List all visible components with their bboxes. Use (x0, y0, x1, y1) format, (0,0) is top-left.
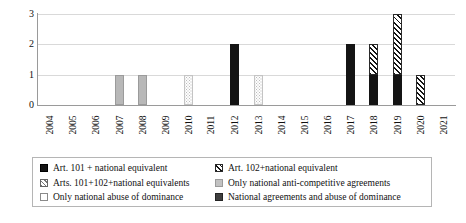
bar-slot-2011 (200, 14, 223, 105)
x-tick-label-2007: 2007 (108, 107, 131, 147)
bar-2019 (393, 14, 402, 105)
x-tick-text: 2004 (45, 116, 55, 135)
bar-segment-2007-snatagr (115, 75, 124, 105)
x-tick-text: 2011 (207, 116, 217, 135)
x-tick-text: 2009 (160, 116, 170, 135)
x-tick-text: 2019 (392, 116, 402, 135)
x-tick-label-2017: 2017 (339, 107, 362, 147)
bar-segment-2010-snatdom (184, 75, 193, 105)
bar-slot-2016 (316, 14, 339, 105)
legend-item-s101[interactable]: Art. 101 + national equivalent (40, 161, 236, 176)
bar-slot-2007 (108, 14, 131, 105)
legend-item-s102[interactable]: Art. 102+national equivalent (215, 161, 431, 176)
x-tick-label-2010: 2010 (177, 107, 200, 147)
bar-slot-2005 (61, 14, 84, 105)
bar-2017 (346, 44, 355, 105)
legend-swatch-snatdom-icon (40, 193, 48, 201)
bar-slot-2017 (339, 14, 362, 105)
bar-slot-2006 (84, 14, 107, 105)
legend-label: Arts. 101+102+national equivalents (53, 178, 190, 188)
bar-2020 (416, 75, 425, 105)
bar-segment-2018-s101 (369, 75, 378, 105)
bar-slot-2012 (223, 14, 246, 105)
legend-column-left: Art. 101 + national equivalentArts. 101+… (40, 161, 236, 205)
legend-column-right: Art. 102+national equivalentOnly nationa… (215, 161, 431, 205)
x-axis-labels: 2004200520062007200820092010201120122013… (38, 107, 455, 149)
bar-segment-2018-s102 (369, 44, 378, 74)
bar-2018 (369, 44, 378, 105)
x-tick-label-2016: 2016 (316, 107, 339, 147)
chart-legend: Art. 101 + national equivalentArts. 101+… (32, 157, 432, 207)
x-tick-text: 2006 (91, 116, 101, 135)
x-tick-label-2008: 2008 (131, 107, 154, 147)
legend-swatch-sboth-icon (40, 179, 48, 187)
bar-2007 (115, 75, 124, 105)
y-tick-label-1: 1 (4, 70, 34, 80)
x-tick-text: 2018 (369, 116, 379, 135)
x-tick-text: 2010 (184, 116, 194, 135)
x-tick-label-2021: 2021 (432, 107, 455, 147)
x-axis-line (37, 105, 456, 106)
bar-slot-2004 (38, 14, 61, 105)
y-tick-label-2: 2 (4, 39, 34, 49)
x-tick-text: 2021 (438, 116, 448, 135)
bar-slot-2008 (131, 14, 154, 105)
x-tick-text: 2016 (323, 116, 333, 135)
x-tick-text: 2014 (276, 116, 286, 135)
legend-swatch-snatagr-icon (215, 179, 223, 187)
legend-item-sboth[interactable]: Arts. 101+102+national equivalents (40, 176, 236, 191)
x-tick-label-2006: 2006 (84, 107, 107, 147)
plot-area (38, 14, 455, 105)
legend-label: Only national abuse of dominance (53, 192, 183, 202)
legend-item-snatagr[interactable]: Only national anti-competitive agreement… (215, 176, 431, 191)
legend-swatch-s101-icon (40, 164, 48, 172)
bar-2008 (138, 75, 147, 105)
bar-segment-2019-s102 (393, 14, 402, 75)
legend-swatch-s102-icon (215, 164, 223, 172)
x-tick-label-2005: 2005 (61, 107, 84, 147)
x-tick-label-2004: 2004 (38, 107, 61, 147)
x-tick-text: 2015 (299, 116, 309, 135)
bar-slot-2015 (293, 14, 316, 105)
bar-2013 (254, 75, 263, 105)
x-tick-text: 2020 (415, 116, 425, 135)
legend-label: Only national anti-competitive agreement… (228, 178, 390, 188)
x-tick-label-2020: 2020 (409, 107, 432, 147)
bar-slot-2014 (270, 14, 293, 105)
bar-2010 (184, 75, 193, 105)
x-tick-label-2013: 2013 (247, 107, 270, 147)
legend-item-snatmix[interactable]: National agreements and abuse of dominan… (215, 190, 431, 205)
bar-segment-2020-s102 (416, 75, 425, 105)
x-tick-text: 2008 (137, 116, 147, 135)
x-tick-text: 2005 (68, 116, 78, 135)
bar-slot-2010 (177, 14, 200, 105)
x-tick-label-2009: 2009 (154, 107, 177, 147)
x-tick-label-2012: 2012 (223, 107, 246, 147)
bar-segment-2008-snatagr (138, 75, 147, 105)
bar-slot-2019 (386, 14, 409, 105)
bar-slot-2013 (247, 14, 270, 105)
legend-label: Art. 102+national equivalent (228, 163, 338, 173)
y-axis-labels: 0123 (0, 0, 34, 150)
bar-slot-2021 (432, 14, 455, 105)
bar-segment-2017-s101 (346, 44, 355, 105)
x-tick-label-2019: 2019 (386, 107, 409, 147)
legend-item-snatdom[interactable]: Only national abuse of dominance (40, 190, 236, 205)
x-tick-text: 2012 (230, 116, 240, 135)
bar-segment-2019-s101 (393, 75, 402, 105)
x-tick-label-2018: 2018 (362, 107, 385, 147)
x-tick-text: 2007 (114, 116, 124, 135)
x-tick-label-2015: 2015 (293, 107, 316, 147)
bar-2012 (230, 44, 239, 105)
bar-segment-2013-snatdom (254, 75, 263, 105)
legend-swatch-snatmix-icon (215, 193, 223, 201)
bar-slot-2018 (362, 14, 385, 105)
legend-label: National agreements and abuse of dominan… (228, 192, 401, 202)
bar-slot-2020 (409, 14, 432, 105)
bar-segment-2012-s101 (230, 44, 239, 105)
x-tick-text: 2017 (346, 116, 356, 135)
x-tick-label-2011: 2011 (200, 107, 223, 147)
y-axis-line (37, 13, 38, 106)
y-tick-label-3: 3 (4, 9, 34, 19)
legend-label: Art. 101 + national equivalent (53, 163, 167, 173)
